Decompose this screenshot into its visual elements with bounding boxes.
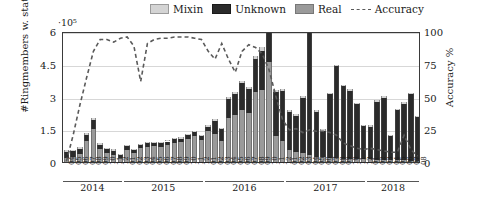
y2-tick-label: 75 [424,59,454,70]
y-tick-label: 0 [30,158,56,169]
legend-dashline-accuracy [351,9,371,10]
y2-tick-label: 100 [424,27,454,38]
legend-item-accuracy: Accuracy [351,4,424,14]
plot-area [62,32,420,163]
legend-item-unknown: Unknown [212,4,286,14]
y2-tick-label: 50 [424,92,454,103]
year-label: 2017 [286,182,365,193]
year-label: 2015 [124,182,203,193]
year-band-2016: 2016 [205,181,284,193]
y-tick-label: 1.5 [30,125,56,136]
legend-swatch-mixin [150,4,169,14]
legend-label-accuracy: Accuracy [375,4,424,14]
legend-label-unknown: Unknown [235,4,286,14]
chart-legend: Mixin Unknown Real Accuracy [150,2,475,16]
y-tick-label: 6 [30,27,56,38]
legend-label-real: Real [318,4,342,14]
y-axis-title: #Ringmembers w. status [19,0,30,115]
year-band-2014: 2014 [63,181,122,193]
year-band-2018: 2018 [367,181,419,193]
y2-tick-label: 25 [424,125,454,136]
chart-figure: Mixin Unknown Real Accuracy ·10⁵ #Ringme… [0,0,485,200]
y2-axis-title: Accuracy % [444,33,455,123]
accuracy-line [63,33,420,163]
y-tick-label: 4.5 [30,59,56,70]
y-axis-multiplier: ·10⁵ [58,17,77,28]
legend-swatch-unknown [212,4,231,14]
year-band-2017: 2017 [286,181,365,193]
year-label: 2014 [63,182,122,193]
y2-tick-label: 0 [424,158,454,169]
legend-item-mixin: Mixin [150,4,203,14]
year-band-2015: 2015 [124,181,203,193]
legend-item-real: Real [295,4,342,14]
legend-swatch-real [295,4,314,14]
year-label: 2016 [205,182,284,193]
y-tick-label: 3 [30,92,56,103]
x-tick-label: 08 [420,156,428,165]
legend-label-mixin: Mixin [173,4,203,14]
year-label: 2018 [367,182,419,193]
